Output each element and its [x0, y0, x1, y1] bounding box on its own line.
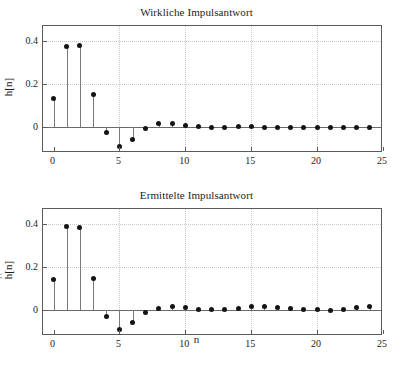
stem-line: [54, 99, 55, 128]
data-point-marker: [328, 125, 333, 130]
stem-line: [93, 279, 94, 310]
x-axis-tick-label: 0: [50, 155, 55, 166]
stem-line: [54, 280, 55, 311]
y-axis-tick-label: 0.2: [8, 261, 38, 272]
y-axis-tick-label: 0: [8, 304, 38, 315]
x-axis-tick-label: 10: [179, 155, 189, 166]
data-point-marker: [249, 304, 254, 309]
x-axis-tick: [251, 147, 252, 151]
y-axis-tick-label: 0.2: [8, 78, 38, 89]
data-point-marker: [222, 307, 227, 312]
stem-line: [93, 94, 94, 127]
plot-inner-top: [43, 26, 381, 151]
data-point-marker: [367, 125, 372, 130]
y-axis-tick: [43, 224, 47, 225]
chart-title-bottom: Ermittelte Impulsantwort: [0, 189, 393, 201]
stem-line: [67, 227, 68, 311]
data-point-marker: [209, 125, 214, 130]
x-axis-tick-label: 15: [245, 155, 255, 166]
data-point-marker: [130, 137, 135, 142]
stem-line: [80, 46, 81, 127]
x-axis-tick-label: 20: [311, 155, 321, 166]
x-axis-tick-label: 5: [116, 155, 121, 166]
data-point-marker: [315, 307, 320, 312]
data-point-marker: [275, 125, 280, 130]
data-point-marker: [315, 125, 320, 130]
chart-panel-ermittelte: Ermittelte Impulsantwort h[n] n 05101520…: [0, 183, 393, 366]
data-point-marker: [183, 305, 188, 310]
y-axis-tick: [43, 84, 47, 85]
y-axis-tick: [43, 267, 47, 268]
gridline-horizontal: [43, 84, 381, 85]
data-point-marker: [288, 125, 293, 130]
gridline-horizontal: [43, 267, 381, 268]
gridline-vertical: [185, 209, 186, 334]
stem-line: [67, 47, 68, 127]
y-axis-tick-label: 0: [8, 121, 38, 132]
y-axis-tick-label: 0.4: [8, 35, 38, 46]
data-point-marker: [143, 126, 148, 131]
data-point-marker: [236, 124, 241, 129]
x-axis-tick-label: 0: [50, 338, 55, 349]
data-point-marker: [341, 125, 346, 130]
gridline-horizontal: [43, 224, 381, 225]
figure-canvas: Wirkliche Impulsantwort h[n] 05101520250…: [0, 0, 393, 366]
plot-area-top: [42, 25, 382, 152]
x-axis-tick: [185, 147, 186, 151]
data-point-marker: [209, 307, 214, 312]
x-axis-tick: [317, 147, 318, 151]
y-axis-tick: [43, 127, 47, 128]
data-point-marker: [288, 306, 293, 311]
x-axis-tick-label: 25: [377, 338, 387, 349]
gridline-vertical: [251, 26, 252, 151]
x-axis-tick-label: 15: [245, 338, 255, 349]
plot-inner-bottom: [43, 209, 381, 334]
data-point-marker: [196, 124, 201, 129]
data-point-marker: [51, 277, 56, 282]
gridline-vertical: [251, 209, 252, 334]
data-point-marker: [301, 125, 306, 130]
data-point-marker: [51, 96, 56, 101]
plot-area-bottom: [42, 208, 382, 335]
y-axis-tick-label: 0.4: [8, 218, 38, 229]
data-point-marker: [354, 125, 359, 130]
stem-line: [80, 228, 81, 310]
data-point-marker: [156, 121, 161, 126]
x-axis-tick-label: 25: [377, 155, 387, 166]
x-axis-label: n: [0, 333, 393, 345]
data-point-marker: [170, 121, 175, 126]
gridline-vertical: [317, 209, 318, 334]
data-point-marker: [64, 224, 69, 229]
x-axis-tick: [383, 147, 384, 151]
x-axis-tick: [54, 147, 55, 151]
data-point-marker: [91, 92, 96, 97]
data-point-marker: [196, 307, 201, 312]
data-point-marker: [170, 304, 175, 309]
chart-panel-wirkliche: Wirkliche Impulsantwort h[n] 05101520250…: [0, 0, 393, 183]
data-point-marker: [143, 310, 148, 315]
data-point-marker: [104, 130, 109, 135]
data-point-marker: [328, 308, 333, 313]
gridline-vertical: [317, 26, 318, 151]
data-point-marker: [236, 306, 241, 311]
data-point-marker: [354, 305, 359, 310]
chart-title-top: Wirkliche Impulsantwort: [0, 6, 393, 18]
gridline-horizontal: [43, 41, 381, 42]
data-point-marker: [262, 125, 267, 130]
data-point-marker: [262, 304, 267, 309]
data-point-marker: [77, 43, 82, 48]
data-point-marker: [183, 123, 188, 128]
data-point-marker: [130, 320, 135, 325]
data-point-marker: [77, 225, 82, 230]
x-axis-tick-label: 20: [311, 338, 321, 349]
x-axis-tick-label: 5: [116, 338, 121, 349]
data-point-marker: [64, 44, 69, 49]
data-point-marker: [341, 307, 346, 312]
data-point-marker: [104, 314, 109, 319]
data-point-marker: [367, 304, 372, 309]
data-point-marker: [222, 125, 227, 130]
x-axis-tick: [119, 147, 120, 151]
data-point-marker: [249, 124, 254, 129]
data-point-marker: [91, 276, 96, 281]
x-axis-tick-label: 10: [179, 338, 189, 349]
